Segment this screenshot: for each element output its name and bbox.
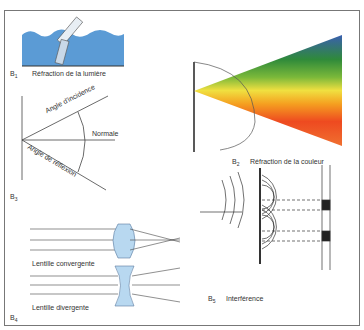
- caption-b5: Interférence: [226, 295, 263, 302]
- caption-b2: Réfraction de la couleur: [250, 158, 324, 165]
- panel-label-b1: B1: [10, 70, 17, 79]
- caption-b1: Réfraction de la lumière: [32, 70, 106, 77]
- panel-label-b3: B3: [10, 193, 17, 202]
- interference-diagram: [200, 165, 330, 270]
- label-divergent-lens: Lentille divergente: [32, 304, 89, 311]
- panel-label-b5: B5: [208, 295, 215, 304]
- panel-label-b2: B2: [232, 158, 239, 167]
- reflection-diagram: [22, 96, 115, 190]
- label-normal: Normale: [92, 130, 118, 137]
- color-refraction-diagram: [194, 35, 342, 152]
- water-refraction-diagram: [22, 17, 124, 66]
- panel-label-b4: B4: [10, 314, 17, 323]
- label-convergent-lens: Lentille convergente: [32, 260, 95, 267]
